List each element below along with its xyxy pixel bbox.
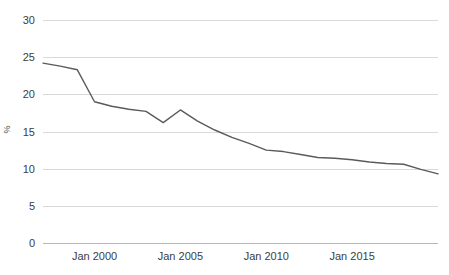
y-axis-tick-labels: 051015202530 [23, 14, 35, 249]
series-line [43, 63, 438, 174]
y-tick-label: 30 [23, 14, 35, 26]
x-tick-label: Jan 2005 [158, 250, 203, 262]
x-axis-tick-labels: Jan 2000Jan 2005Jan 2010Jan 2015 [72, 250, 375, 262]
x-tick-label: Jan 2000 [72, 250, 117, 262]
y-axis-label: % [2, 125, 12, 133]
y-tick-label: 15 [23, 126, 35, 138]
y-tick-label: 20 [23, 88, 35, 100]
gridlines [43, 21, 438, 207]
x-tick-label: Jan 2015 [329, 250, 374, 262]
y-tick-label: 10 [23, 163, 35, 175]
y-tick-label: 5 [29, 200, 35, 212]
data-series [43, 63, 438, 174]
y-axis-title: % [2, 125, 12, 133]
chart-canvas: 051015202530 Jan 2000Jan 2005Jan 2010Jan… [0, 0, 449, 275]
x-tick-label: Jan 2010 [244, 250, 289, 262]
y-tick-label: 0 [29, 237, 35, 249]
y-tick-label: 25 [23, 51, 35, 63]
line-chart: 051015202530 Jan 2000Jan 2005Jan 2010Jan… [0, 0, 449, 275]
